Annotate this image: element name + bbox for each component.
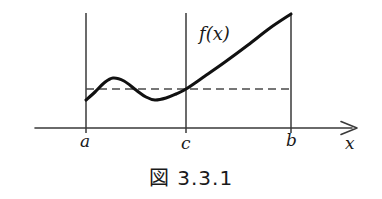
figure-caption-text: 図 3.3.1 <box>149 166 233 190</box>
figure-container: a c b x f(x) 図 3.3.1 <box>0 0 382 199</box>
function-curve <box>86 14 291 100</box>
x-tick-label-b: b <box>286 132 297 149</box>
x-tick-label-a: a <box>80 133 90 150</box>
x-tick-label-c: c <box>181 135 191 152</box>
function-curve-label: f(x) <box>199 25 230 43</box>
x-axis-label: x <box>345 135 355 152</box>
figure-caption: 図 3.3.1 <box>0 166 382 190</box>
vertical-lines-group <box>86 13 291 133</box>
